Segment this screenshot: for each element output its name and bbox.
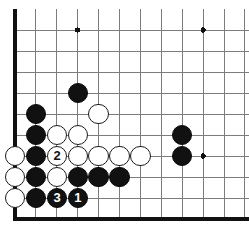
go-diagram: 231 xyxy=(0,0,249,242)
move-number-label: 2 xyxy=(48,147,66,165)
black-stone[interactable] xyxy=(26,146,46,166)
black-stone[interactable] xyxy=(68,83,88,103)
white-stone[interactable] xyxy=(68,146,88,166)
white-stone[interactable] xyxy=(88,104,108,124)
white-stone[interactable] xyxy=(130,146,150,166)
black-stone[interactable] xyxy=(26,188,46,208)
white-stone[interactable] xyxy=(47,167,67,187)
star-point xyxy=(201,153,206,158)
black-stone[interactable] xyxy=(109,167,129,187)
grid-lines xyxy=(15,9,249,219)
move-number-label: 3 xyxy=(48,189,66,207)
star-point xyxy=(75,27,80,32)
white-stone[interactable] xyxy=(109,146,129,166)
white-stone[interactable]: 2 xyxy=(47,146,67,166)
black-stone[interactable] xyxy=(26,167,46,187)
black-stone[interactable] xyxy=(26,125,46,145)
black-stone[interactable] xyxy=(26,104,46,124)
black-stone[interactable]: 3 xyxy=(47,188,67,208)
white-stone[interactable] xyxy=(88,146,108,166)
move-number-label: 1 xyxy=(69,189,87,207)
white-stone[interactable] xyxy=(68,125,88,145)
star-point xyxy=(201,27,206,32)
black-stone[interactable] xyxy=(68,167,88,187)
black-stone[interactable]: 1 xyxy=(68,188,88,208)
white-stone[interactable] xyxy=(47,125,67,145)
black-stone[interactable] xyxy=(88,167,108,187)
